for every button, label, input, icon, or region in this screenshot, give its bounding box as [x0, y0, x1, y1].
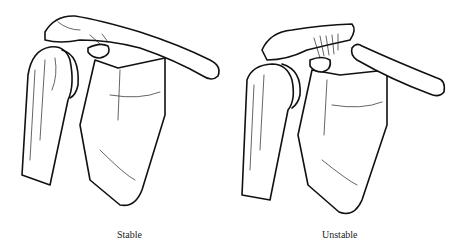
unstable-caption: Unstable: [322, 229, 358, 240]
unstable-shoulder-drawing: [232, 0, 464, 220]
stable-shoulder-drawing: [0, 0, 232, 220]
unstable-shoulder-illustration: [232, 0, 464, 220]
stable-caption: Stable: [117, 229, 142, 240]
stable-shoulder-illustration: [0, 0, 232, 220]
